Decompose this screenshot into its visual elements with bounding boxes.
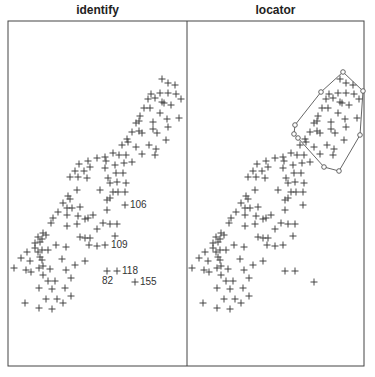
plus-marker (165, 90, 172, 97)
plus-marker (121, 160, 128, 167)
plus-marker (300, 202, 307, 209)
plus-marker (132, 279, 139, 286)
plus-marker (252, 221, 259, 228)
plus-marker (120, 170, 127, 177)
plus-marker (123, 152, 130, 159)
plus-marker (253, 174, 260, 181)
plus-marker (292, 221, 299, 228)
plus-marker (45, 247, 52, 254)
plus-marker (343, 90, 350, 97)
plus-marker (76, 161, 83, 168)
plus-marker (75, 213, 82, 220)
plus-marker (263, 158, 270, 165)
vertex-circle (322, 165, 327, 170)
plus-marker (250, 262, 257, 269)
plus-marker (238, 300, 245, 307)
locator-points (189, 76, 363, 313)
plus-marker (302, 136, 309, 143)
plus-marker (263, 215, 270, 222)
plus-marker (63, 244, 70, 251)
plus-marker (246, 293, 253, 300)
plus-marker (114, 221, 121, 228)
plus-marker (285, 221, 292, 228)
plus-marker (272, 226, 279, 233)
plus-marker (214, 305, 221, 312)
plus-marker (49, 286, 56, 293)
plus-marker (163, 137, 170, 144)
plus-marker (104, 268, 111, 275)
plus-marker (288, 150, 295, 157)
plus-marker (94, 243, 101, 250)
plus-marker (250, 168, 257, 175)
plus-marker (351, 91, 358, 98)
plus-marker (114, 179, 121, 186)
plus-marker (265, 164, 272, 171)
plus-marker (115, 189, 122, 196)
plus-marker (335, 110, 342, 117)
plus-marker (137, 113, 144, 120)
plus-marker (32, 245, 39, 252)
plus-marker (168, 102, 175, 109)
plus-marker (290, 162, 297, 169)
plus-marker (265, 235, 272, 242)
plus-marker (94, 226, 101, 233)
plus-marker (64, 223, 71, 230)
plus-marker (341, 137, 348, 144)
plus-marker (255, 234, 262, 241)
plus-marker (290, 233, 297, 240)
plus-marker (152, 152, 159, 159)
plus-marker (232, 296, 239, 303)
plus-marker (72, 168, 79, 175)
plus-marker (129, 129, 136, 136)
plus-marker (223, 278, 230, 285)
plus-marker (280, 154, 287, 161)
plus-marker (102, 242, 109, 249)
plot-frame (8, 21, 364, 366)
plus-marker (157, 110, 164, 117)
plus-marker (124, 136, 131, 143)
plus-marker (100, 220, 107, 227)
plus-marker (146, 142, 153, 149)
plus-marker (268, 212, 275, 219)
plus-marker (221, 296, 228, 303)
plus-marker (110, 150, 117, 157)
plus-marker (294, 152, 301, 159)
plus-marker (40, 272, 47, 279)
plus-marker (165, 124, 172, 131)
plus-marker (178, 96, 185, 103)
plus-marker (133, 144, 140, 151)
plus-marker (335, 90, 342, 97)
plus-marker (272, 243, 279, 250)
plus-marker (247, 205, 254, 212)
plus-marker (281, 158, 288, 165)
plus-marker (293, 189, 300, 196)
plus-marker (241, 244, 248, 251)
plus-marker (230, 278, 237, 285)
plus-marker (45, 278, 52, 285)
plus-marker (84, 175, 91, 182)
plus-marker (317, 151, 324, 158)
plus-marker (77, 234, 84, 241)
plus-marker (153, 146, 160, 153)
plus-marker (145, 96, 152, 103)
plus-marker (262, 175, 269, 182)
plus-marker (165, 80, 172, 87)
plus-marker (112, 162, 119, 169)
plus-marker (343, 124, 350, 131)
plot-area: 10610911882155 (0, 0, 375, 377)
plus-marker (242, 223, 249, 230)
point-label: 155 (140, 276, 157, 287)
vertex-circle (296, 136, 301, 141)
vertex-circle (337, 169, 342, 174)
plus-marker (202, 249, 209, 256)
plus-marker (68, 275, 75, 282)
plus-marker (325, 105, 332, 112)
plus-marker (97, 187, 104, 194)
plus-marker (22, 300, 29, 307)
plus-marker (81, 168, 88, 175)
plus-marker (125, 139, 132, 146)
plus-marker (173, 91, 180, 98)
plus-marker (210, 245, 217, 252)
plus-marker (343, 80, 350, 87)
plus-marker (196, 255, 203, 262)
